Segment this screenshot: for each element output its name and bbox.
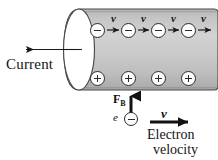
drift-velocity-label-3: v bbox=[171, 13, 176, 25]
electron-velocity-caption: Electronvelocity bbox=[147, 128, 198, 157]
electron-velocity-line1: Electron bbox=[147, 127, 194, 142]
force-subscript: B bbox=[120, 99, 125, 108]
drift-electron-1 bbox=[90, 23, 105, 38]
positive-ion-3 bbox=[151, 71, 166, 86]
current-label: Current bbox=[6, 57, 53, 73]
positive-ion-4 bbox=[181, 71, 196, 86]
drift-velocity-label-4: v bbox=[201, 13, 206, 25]
external-electron bbox=[124, 112, 138, 126]
electron-velocity-line2: velocity bbox=[147, 143, 198, 158]
drift-velocity-label-1: v bbox=[111, 13, 116, 25]
electron-charge-symbol: e bbox=[113, 112, 118, 124]
drift-electron-2 bbox=[121, 23, 136, 38]
positive-ion-2 bbox=[121, 71, 136, 86]
positive-ion-1 bbox=[90, 71, 105, 86]
drift-electron-4 bbox=[181, 23, 196, 38]
drift-velocity-label-2: v bbox=[141, 13, 146, 25]
electron-velocity-vector-label: v bbox=[161, 107, 167, 121]
drift-electron-3 bbox=[151, 23, 166, 38]
physics-diagram: v v v v Current FB e v Electronvelocity bbox=[0, 0, 218, 160]
magnetic-force-label: FB bbox=[113, 93, 126, 109]
